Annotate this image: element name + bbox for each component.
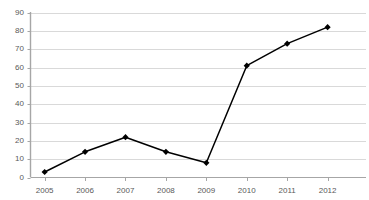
data-series-line	[45, 27, 328, 172]
y-axis-tick-label: 60	[2, 64, 24, 72]
y-axis-tick-label: 90	[2, 9, 24, 17]
x-axis-tick-label: 2006	[65, 187, 105, 195]
axis-group	[31, 12, 367, 178]
x-axis-tick-label: 2005	[25, 187, 65, 195]
x-axis-tick-label: 2009	[186, 187, 226, 195]
chart-plot-area	[0, 0, 369, 200]
data-point-marker	[163, 149, 169, 155]
x-axis-tick-label: 2008	[146, 187, 186, 195]
data-point-marker	[284, 41, 290, 47]
x-axis-tick-label: 2007	[105, 187, 145, 195]
data-point-marker	[82, 149, 88, 155]
data-point-marker	[244, 63, 250, 69]
data-point-marker	[324, 24, 330, 30]
y-axis-tick-label: 80	[2, 27, 24, 35]
x-axis-tick-label: 2010	[227, 187, 267, 195]
gridline-group	[31, 14, 367, 160]
x-axis-tick-label: 2012	[308, 187, 348, 195]
data-point-marker	[122, 134, 128, 140]
y-axis-tick-label: 50	[2, 82, 24, 90]
y-axis-tick-label: 70	[2, 45, 24, 53]
y-axis-tick-label: 20	[2, 137, 24, 145]
x-axis-tick-label: 2011	[267, 187, 307, 195]
y-axis-tick-label: 0	[2, 174, 24, 182]
data-point-markers	[42, 24, 331, 175]
y-axis-tick-label: 10	[2, 155, 24, 163]
data-point-marker	[42, 169, 48, 175]
line-chart: 0102030405060708090 20052006200720082009…	[0, 0, 369, 200]
y-axis-tick-label: 40	[2, 100, 24, 108]
data-point-marker	[203, 160, 209, 166]
y-axis-tick-label: 30	[2, 119, 24, 127]
